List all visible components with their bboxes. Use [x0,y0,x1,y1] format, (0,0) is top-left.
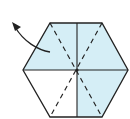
center-point [75,68,78,71]
shaded-top-half [23,23,128,70]
origami-diagram [0,0,130,119]
shaded-bottom-right [77,70,128,117]
arrow-head-icon [12,22,21,31]
hexagon-fold-figure [0,0,130,119]
